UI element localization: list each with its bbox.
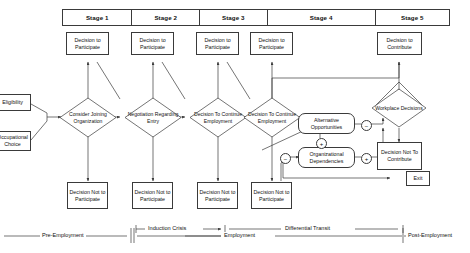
- diamond-negotiation-regarding-entry[interactable]: Negotiation Regarding Entry: [124, 97, 182, 138]
- decision-to-contribute[interactable]: Decision to Contribute: [377, 32, 422, 55]
- diamond-decision-to-continue-employment-2[interactable]: Decision To Continue Employment: [243, 97, 301, 138]
- stage-cell-5[interactable]: Stage 5: [376, 10, 449, 25]
- stage-cell-3[interactable]: Stage 3: [200, 10, 268, 25]
- node-organizational-dependencies[interactable]: Organizational Dependencies: [298, 147, 355, 168]
- sign-marker-plus-alt-org: +: [316, 138, 327, 149]
- diamond-consider-joining-organization[interactable]: Consider Joining Organization: [59, 97, 117, 138]
- sign-marker-minus-org-input: −: [280, 153, 291, 164]
- decision-not-to-contribute[interactable]: Decision Not To Contribute: [377, 142, 422, 170]
- edge-participate1-to-d2: [97, 62, 120, 99]
- diamond-shape: [371, 88, 427, 128]
- edge-participate2-to-d3: [162, 62, 185, 99]
- diamond-shape: [59, 97, 117, 138]
- decision-to-participate-4[interactable]: Decision to Participate: [250, 32, 293, 55]
- node-alternative-opportunities[interactable]: Alternative Opportunities: [298, 113, 355, 134]
- exit-box[interactable]: Exit: [406, 171, 430, 186]
- sign-marker-minus-alt-to-workplace: −: [361, 120, 372, 131]
- diamond-shape: [124, 97, 182, 138]
- edge-eligibility-merge: [31, 104, 47, 113]
- diamond-shape: [243, 97, 301, 138]
- phase-label-post-employment: Post-Employment: [406, 232, 454, 238]
- decision-not-to-participate-2[interactable]: Decision Not to Participate: [132, 182, 173, 209]
- flowchart-canvas: Stage 1 Stage 2 Stage 3 Stage 4 Stage 5 …: [0, 0, 470, 253]
- input-box-eligibility[interactable]: Eligibility: [0, 94, 31, 111]
- stage-header-bar: Stage 1 Stage 2 Stage 3 Stage 4 Stage 5: [62, 9, 450, 26]
- stage-cell-2[interactable]: Stage 2: [132, 10, 200, 25]
- stage-cell-1[interactable]: Stage 1: [63, 10, 132, 25]
- decision-to-participate-1[interactable]: Decision to Participate: [66, 32, 109, 55]
- diamond-shape: [189, 97, 247, 138]
- decision-to-participate-3[interactable]: Decision to Participate: [196, 32, 239, 55]
- phase-label-pre-employment: Pre-Employment: [40, 232, 86, 238]
- decision-not-to-participate-4[interactable]: Decision Not to Participate: [251, 182, 292, 209]
- phase-label-employment: Employment: [222, 232, 257, 238]
- phase-label-differential-transit: Differential Transit: [283, 225, 332, 231]
- diamond-decision-to-continue-employment-1[interactable]: Decision To Continue Employment: [189, 97, 247, 138]
- stage-cell-4[interactable]: Stage 4: [268, 10, 376, 25]
- input-box-occupational-choice[interactable]: Occupational Choice: [0, 131, 31, 151]
- phase-label-induction-crisis: Induction Crisis: [146, 225, 188, 231]
- edge-participate3-to-d4: [227, 62, 250, 99]
- sign-marker-plus-org-to-workplace: +: [361, 153, 372, 164]
- diamond-workplace-decisions[interactable]: Workplace Decisions: [371, 88, 427, 128]
- decision-not-to-participate-3[interactable]: Decision Not to Participate: [197, 182, 238, 209]
- edge-occupational-merge: [31, 121, 47, 140]
- decision-not-to-participate-1[interactable]: Decision Not to Participate: [67, 182, 108, 209]
- decision-to-participate-2[interactable]: Decision to Participate: [131, 32, 174, 55]
